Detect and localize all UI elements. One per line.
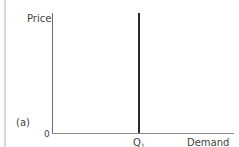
quantity-subscript: 1: [141, 142, 145, 147]
origin-label: 0: [44, 128, 50, 140]
page-edge-strip: [4, 0, 6, 147]
y-axis-label: Price: [27, 13, 51, 25]
vertical-demand-line: [138, 13, 140, 133]
quantity-tick-label: Q1: [133, 137, 145, 147]
quantity-symbol: Q: [133, 137, 141, 147]
panel-label: (a): [16, 117, 30, 129]
x-axis-label: Demand: [187, 137, 229, 147]
y-axis: [52, 13, 53, 133]
x-axis: [52, 133, 234, 134]
